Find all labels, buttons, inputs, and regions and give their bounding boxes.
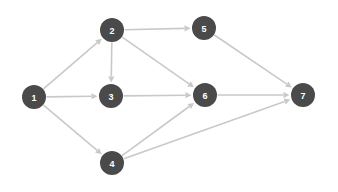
arrowhead-icon-4-to-6 (187, 103, 194, 109)
node-label-3: 3 (108, 92, 113, 102)
graph-svg-canvas: 1234567 (0, 0, 338, 192)
graph-edge-2-to-6 (122, 37, 189, 84)
graph-edge-1-to-2 (43, 43, 97, 89)
graph-edge-5-to-7 (214, 35, 287, 84)
node-label-2: 2 (109, 26, 114, 36)
arrowhead-icon-2-to-5 (184, 25, 190, 31)
node-label-7: 7 (300, 91, 305, 101)
graph-node-4[interactable]: 4 (100, 151, 124, 175)
graph-edge-1-to-3 (47, 96, 92, 97)
graph-edge-2-to-5 (125, 28, 185, 29)
graph-edge-2-to-3 (111, 43, 112, 77)
graph-edge-1-to-4 (44, 105, 98, 150)
node-label-5: 5 (201, 24, 206, 34)
graph-node-2[interactable]: 2 (100, 18, 124, 42)
node-label-6: 6 (202, 91, 207, 101)
arrowhead-icon-2-to-3 (108, 76, 114, 82)
graph-edge-4-to-7 (124, 102, 285, 159)
node-label-1: 1 (31, 93, 36, 103)
graph-node-3[interactable]: 3 (99, 84, 123, 108)
graph-node-1[interactable]: 1 (22, 85, 46, 109)
edges-group (43, 25, 291, 159)
arrowhead-icon-1-to-3 (91, 93, 97, 99)
arrowhead-icon-2-to-6 (187, 81, 194, 87)
arrowhead-icon-6-to-7 (284, 92, 290, 98)
graph-node-6[interactable]: 6 (193, 83, 217, 107)
node-label-4: 4 (109, 159, 114, 169)
graph-node-5[interactable]: 5 (192, 16, 216, 40)
directed-graph-diagram: 1234567 (0, 0, 338, 192)
graph-node-7[interactable]: 7 (291, 83, 315, 107)
arrowhead-icon-3-to-6 (185, 92, 191, 98)
graph-edge-3-to-6 (124, 95, 186, 96)
